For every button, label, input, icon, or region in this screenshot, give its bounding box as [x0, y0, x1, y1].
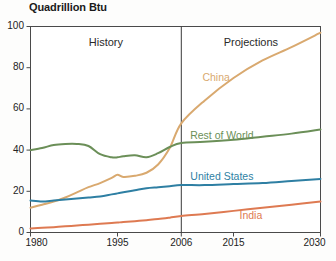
y-tick-label-100: 100	[0, 20, 24, 31]
series-label-united-states: United States	[190, 170, 253, 182]
x-tick-label-2006: 2006	[151, 237, 211, 248]
y-tick-label-60: 60	[0, 102, 24, 113]
y-tick-label-40: 40	[0, 144, 24, 155]
y-tick-label-80: 80	[0, 61, 24, 72]
history-panel-label: History	[89, 36, 123, 48]
projections-panel-label: Projections	[224, 36, 278, 48]
y-tick-label-20: 20	[0, 185, 24, 196]
series-label-china: China	[202, 71, 229, 83]
series-label-india: India	[240, 209, 263, 221]
x-tick-label-2030: 2030	[285, 237, 336, 248]
plot-area	[0, 0, 336, 261]
plot-frame	[31, 27, 321, 233]
x-tick-label-2015: 2015	[204, 237, 264, 248]
x-tick-label-1995: 1995	[88, 237, 148, 248]
chart-container: Quadrillion Btu 020406080100 19801995200…	[0, 0, 336, 261]
x-tick-label-1980: 1980	[7, 237, 67, 248]
y-axis-ticks	[27, 27, 31, 233]
y-tick-label-0: 0	[0, 226, 24, 237]
series-label-rest-of-world: Rest of World	[190, 129, 253, 141]
